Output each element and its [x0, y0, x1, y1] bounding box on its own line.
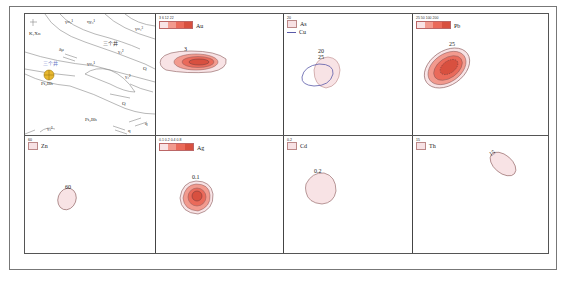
- label-q-small: q: [145, 121, 148, 126]
- label-pt-bh: Pt₂Bh: [41, 81, 53, 86]
- label-quaternary: Q: [143, 66, 147, 71]
- cd-anomaly-panel: 0.2 Cd 0.2: [284, 136, 412, 255]
- pb-contours: [413, 14, 550, 135]
- label-gamma: γ₃²: [125, 74, 130, 79]
- as-cu-contours: [284, 14, 412, 135]
- label-gamma-o: γo₄¹: [65, 19, 73, 24]
- th-contours: [413, 136, 550, 255]
- cu-contour-label: 25: [318, 54, 324, 60]
- ag-anomaly-panel: 0.1 0.2 0.4 0.8 Ag 0.1: [156, 136, 283, 255]
- as-cu-anomaly-panel: 20 As Cu 20 25: [284, 14, 412, 135]
- label-gamma: γ₃²: [47, 126, 52, 131]
- cd-contour-label: 0.2: [314, 168, 322, 174]
- label-q-small: q: [128, 128, 131, 133]
- au-anomaly-panel: 3 6 12 22 Au 3: [156, 14, 283, 135]
- label-pt-bh: Pt₂Bh: [85, 117, 97, 122]
- label-sangeji: 三个井: [103, 39, 118, 46]
- label-sangeji-mine: 三个井: [43, 59, 58, 66]
- label-gamma-o: γo₄³: [135, 26, 143, 31]
- label-gamma-o: γo₄¹: [87, 61, 95, 66]
- pb-anomaly-panel: 25 50 100 200 Pb 25: [413, 14, 550, 135]
- label-gamma: γ₃²: [118, 49, 123, 54]
- label-eta-gamma: ηγ₃¹: [87, 19, 95, 24]
- cd-contours: [284, 136, 412, 255]
- ag-contours: [156, 136, 283, 255]
- zn-contour-label: 60: [65, 184, 71, 190]
- zn-anomaly-panel: 60 Zn 60: [25, 136, 155, 255]
- au-contour-label: 3: [184, 46, 187, 52]
- label-kxn: K₁Xn: [29, 31, 40, 36]
- label-delta-mu: δμ: [59, 47, 64, 52]
- au-contours: [156, 14, 283, 135]
- th-anomaly-panel: 15 Th 15: [413, 136, 550, 255]
- ag-contour-label: 0.1: [192, 174, 200, 180]
- pb-contour-label: 25: [449, 41, 455, 47]
- zn-contours: [25, 136, 155, 255]
- label-quaternary: Q: [122, 101, 126, 106]
- geology-panel: K₁Xn γo₄¹ ηγ₃¹ γo₄³ 三个井 δμ γ₃² 三个井 γo₄¹ …: [25, 14, 155, 135]
- anomaly-map-grid: K₁Xn γo₄¹ ηγ₃¹ γo₄³ 三个井 δμ γ₃² 三个井 γo₄¹ …: [24, 13, 549, 254]
